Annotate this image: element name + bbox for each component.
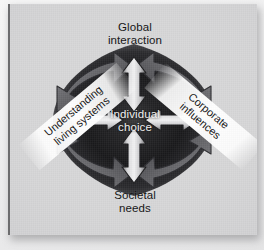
figure-root: Global interaction Individual choice Soc… <box>0 0 264 250</box>
diagram-panel: Global interaction Individual choice Soc… <box>8 4 257 235</box>
